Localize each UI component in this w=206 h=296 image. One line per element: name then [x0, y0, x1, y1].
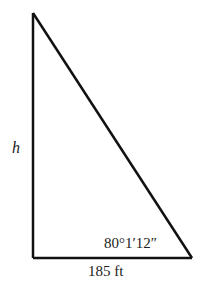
angle-label: 80°1′12″	[104, 236, 157, 251]
height-label: h	[12, 140, 20, 156]
hypotenuse	[33, 13, 192, 258]
base-label: 185 ft	[88, 264, 123, 279]
triangle-diagram	[0, 0, 206, 296]
